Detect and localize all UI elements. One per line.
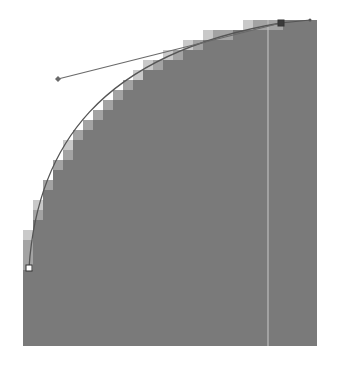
diagram-canvas — [0, 0, 337, 373]
direction-handle-point[interactable] — [55, 76, 61, 82]
handle-diamond-icon[interactable] — [55, 76, 61, 82]
top-anchor[interactable] — [278, 20, 284, 26]
pixel-staircase — [23, 20, 317, 346]
pixel-diagram — [0, 0, 337, 373]
bottom-anchor[interactable] — [26, 265, 32, 271]
extension-endpoint — [309, 19, 312, 22]
